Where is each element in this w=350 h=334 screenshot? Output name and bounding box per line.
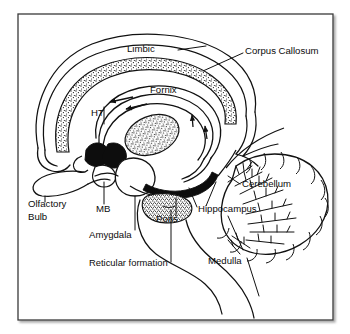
label-ht: HT xyxy=(91,107,104,118)
label-hippocampus: Hippocampus xyxy=(198,203,257,214)
label-mb: MB xyxy=(96,203,110,214)
label-reticular-formation: Reticular formation xyxy=(89,257,168,268)
label-olfactory-bulb-line2: Bulb xyxy=(28,211,47,222)
label-olfactory-bulb-line1: Olfactory xyxy=(28,198,67,209)
label-limbic: Limbic xyxy=(127,43,155,54)
label-amygdala: Amygdala xyxy=(89,229,132,240)
limbic-system-figure: Limbic Corpus Callosum Fornix HT Cerebel… xyxy=(0,0,350,334)
label-cerebellum: Cerebellum xyxy=(242,178,291,189)
label-fornix: Fornix xyxy=(150,84,177,95)
label-pons: Pons xyxy=(156,213,178,224)
brain-diagram-canvas: Limbic Corpus Callosum Fornix HT Cerebel… xyxy=(0,0,350,334)
label-medulla: Medulla xyxy=(208,255,242,266)
label-corpus-callosum: Corpus Callosum xyxy=(245,45,319,56)
